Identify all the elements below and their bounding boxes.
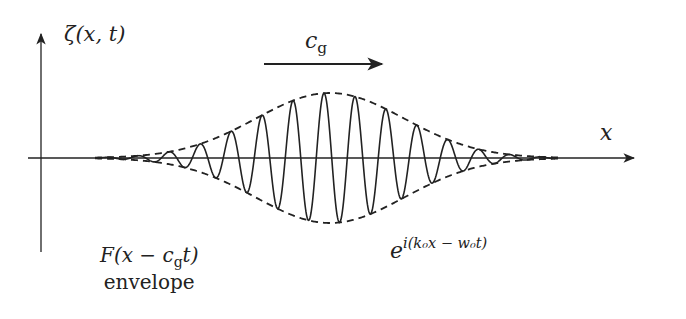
envelope-label: F(x − cgt) envelope [100, 243, 198, 294]
group-velocity-label: cg [305, 28, 327, 57]
carrier-base: e [390, 238, 403, 263]
envelope-expression: F(x − cgt) [100, 243, 198, 270]
cg-base: c [305, 28, 317, 53]
envelope-lower-curve [95, 158, 560, 223]
zeta-symbol: ζ [64, 22, 75, 46]
env-expr-sub: g [174, 254, 183, 270]
y-axis-label: ζ(x, t) [64, 22, 125, 46]
y-axis-args: (x, t) [75, 22, 125, 46]
env-expr-pre: F(x − c [100, 243, 174, 267]
carrier-label: ei(k₀x − w₀t) [390, 237, 487, 263]
x-axis-label: x [600, 120, 612, 145]
carrier-exponent: i(k₀x − w₀t) [403, 235, 487, 251]
envelope-caption: envelope [100, 270, 198, 294]
env-expr-post: t) [183, 243, 199, 267]
wave-packet-diagram: ζ(x, t) x cg F(x − cgt) envelope ei(k₀x … [0, 0, 686, 319]
cg-sub: g [317, 39, 327, 57]
